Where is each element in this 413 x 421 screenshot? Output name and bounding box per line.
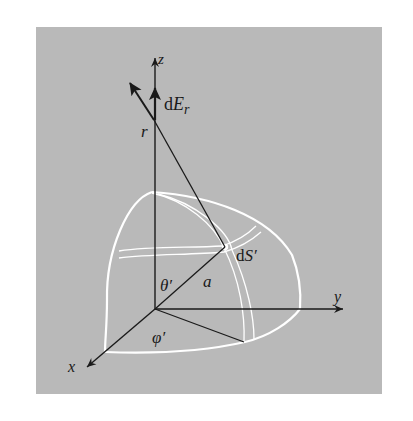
field-E: E [172, 94, 184, 114]
x-axis-label: x [67, 358, 75, 375]
background-panel [36, 27, 382, 394]
surface-S: S′ [245, 246, 258, 265]
field-sub: r [184, 102, 190, 117]
y-axis-label: y [332, 288, 342, 306]
surface-element-label: dS′ [236, 246, 257, 265]
azimuth-angle-label: φ′ [152, 328, 165, 347]
field-d: d [164, 94, 173, 114]
observation-point-label: r [141, 122, 148, 141]
z-axis-label: z [157, 51, 164, 67]
polar-angle-label: θ′ [160, 276, 172, 295]
spherical-surface-field-diagram: z y x dEr r dS′ θ′ a φ′ [0, 0, 413, 421]
radius-label: a [203, 272, 212, 291]
